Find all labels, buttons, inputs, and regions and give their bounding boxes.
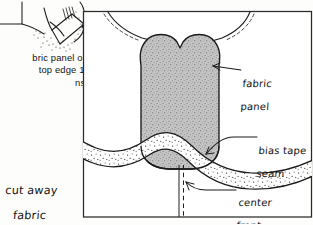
fabric-panel-label-line-1: fabric [242, 78, 273, 89]
bias-tape-label-line-2: seam [256, 168, 285, 179]
cut-away-line-2: fabric [3, 210, 79, 223]
fabric-panel-label-line-2: panel [240, 101, 270, 112]
fabric-panel-label: fabric panel [240, 66, 274, 112]
cut-away-annotation: cut away fabric extending above [0, 172, 82, 224]
center-front-label-line-1: center [238, 197, 272, 208]
cut-away-line-1: cut away [5, 185, 81, 198]
bias-tape-label-line-1: bias tape [258, 145, 307, 156]
center-front-label: center front [236, 185, 273, 224]
bias-tape-seam-label: bias tape seam [256, 133, 308, 179]
center-front-label-line-2: front [236, 220, 262, 225]
diagram-canvas: bric panel on top edge 1″ ns. [0, 0, 313, 224]
